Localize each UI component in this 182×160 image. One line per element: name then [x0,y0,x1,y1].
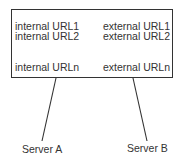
connector-server-b [133,78,147,141]
connector-server-a [42,78,56,141]
connector-lines [0,0,182,160]
server-b-label: Server B [127,142,168,154]
server-a-label: Server A [22,143,62,155]
